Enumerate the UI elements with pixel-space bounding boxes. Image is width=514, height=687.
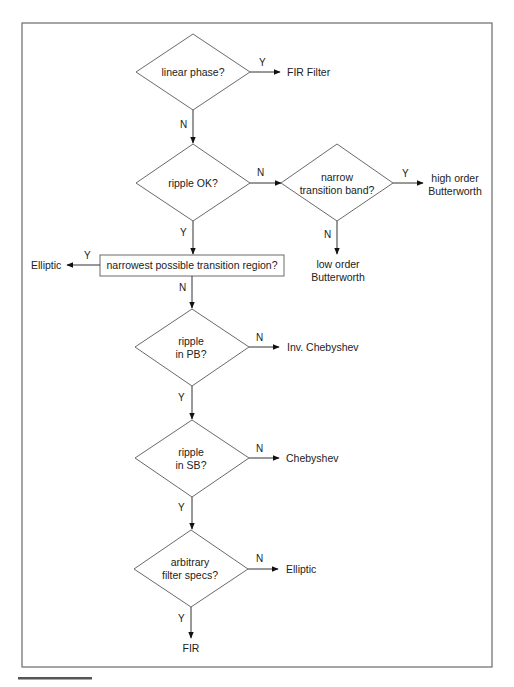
edge-label-y: Y [402, 168, 409, 179]
edge-label-n: N [179, 282, 186, 293]
outcome-low-order-line2: Butterworth [311, 271, 365, 283]
decision-linear-phase: linear phase? [136, 34, 250, 110]
process-narrowest-transition: narrowest possible transition region? [100, 255, 284, 276]
decision-ripple-ok-label: ripple OK? [168, 177, 218, 189]
outcome-fir: FIR [183, 642, 200, 654]
edge-label-n: N [180, 119, 187, 130]
decision-arbitrary-label-line1: arbitrary [171, 556, 210, 568]
outcome-fir-filter: FIR Filter [287, 66, 331, 78]
process-narrowest-label: narrowest possible transition region? [106, 259, 277, 271]
edge-label-y: Y [180, 227, 187, 238]
decision-pb-label-line1: ripple [178, 335, 204, 347]
decision-pb-label-line2: in PB? [176, 348, 207, 360]
decision-ripple-in-sb: ripple in SB? [135, 420, 249, 497]
edge-label-y: Y [178, 502, 185, 513]
edge-label-y: Y [178, 392, 185, 403]
edge-label-y: Y [84, 250, 91, 261]
edge-label-n: N [256, 443, 263, 454]
decision-ripple-ok: ripple OK? [136, 144, 250, 221]
decision-ripple-in-pb: ripple in PB? [135, 309, 249, 386]
outcome-high-order-line2: Butterworth [428, 185, 482, 197]
edge-label-n: N [324, 229, 331, 240]
flowchart-canvas: linear phase? Y FIR Filter N ripple OK? … [0, 0, 514, 687]
outcome-low-order-line1: low order [316, 258, 360, 270]
caption-rule [18, 677, 92, 680]
edge-label-n: N [256, 553, 263, 564]
outcome-elliptic-2: Elliptic [286, 563, 316, 575]
decision-narrow-label-line1: narrow [321, 171, 354, 183]
outcome-inv-chebyshev: Inv. Chebyshev [287, 341, 359, 353]
diagram-frame [22, 23, 492, 667]
outcome-elliptic-1: Elliptic [31, 259, 61, 271]
edge-label-y: Y [259, 57, 266, 68]
decision-linear-phase-label: linear phase? [161, 66, 224, 78]
decision-arbitrary-filter-specs: arbitrary filter specs? [134, 530, 248, 607]
edge-label-n: N [256, 332, 263, 343]
edge-label-y: Y [178, 613, 185, 624]
outcome-chebyshev: Chebyshev [286, 452, 339, 464]
outcome-high-order-line1: high order [431, 172, 479, 184]
decision-arbitrary-label-line2: filter specs? [162, 569, 218, 581]
decision-narrow-transition-band: narrow transition band? [281, 144, 393, 221]
edge-label-n: N [257, 167, 264, 178]
decision-narrow-label-line2: transition band? [300, 184, 375, 196]
decision-sb-label-line2: in SB? [176, 459, 207, 471]
decision-sb-label-line1: ripple [178, 446, 204, 458]
